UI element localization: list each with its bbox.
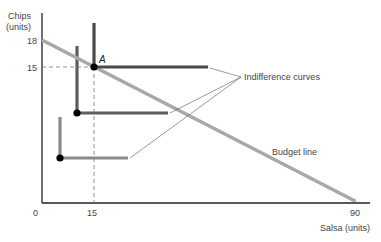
chart-canvas: Chips (units) 18 15 0 15 90 Salsa (units… [0, 0, 381, 242]
ic-callout-label: Indifference curves [244, 72, 320, 82]
budget-line [42, 40, 355, 201]
x-tick-15: 15 [87, 208, 97, 218]
point-low-marker [56, 154, 63, 161]
point-a-label: A [98, 54, 106, 65]
indifference-curve-high [94, 23, 208, 67]
y-tick-15: 15 [27, 63, 37, 73]
x-tick-0: 0 [33, 208, 38, 218]
y-tick-18: 18 [27, 36, 37, 46]
x-axis-label: Salsa (units) [320, 223, 370, 233]
point-a-marker [90, 63, 97, 70]
y-axis-label-line2: (units) [6, 22, 31, 32]
y-axis-label-line1: Chips [8, 11, 32, 21]
x-tick-90-label: 90 [350, 208, 360, 218]
point-mid-marker [73, 109, 80, 116]
budget-line-label: Budget line [272, 147, 317, 157]
